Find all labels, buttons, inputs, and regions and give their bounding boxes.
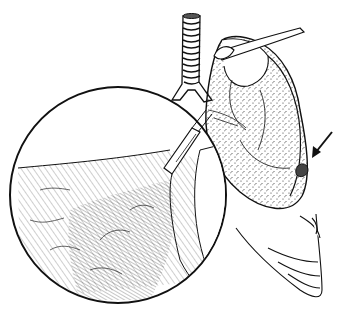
illustration-svg	[0, 0, 338, 318]
ribs	[236, 214, 322, 297]
lesion	[296, 164, 308, 177]
arrow-icon	[312, 132, 332, 158]
trachea	[172, 14, 212, 103]
medical-illustration	[0, 0, 338, 318]
